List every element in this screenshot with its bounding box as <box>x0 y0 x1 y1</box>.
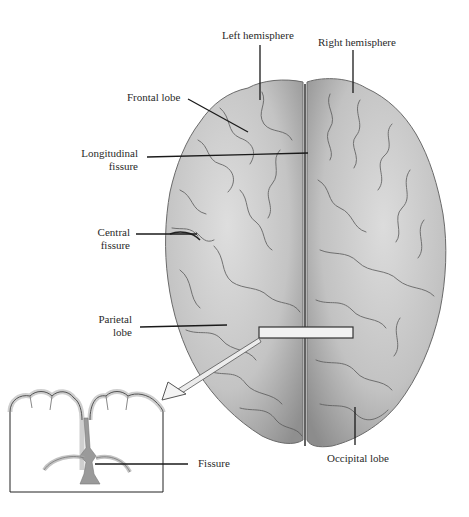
label-central-fissure-line2: fissure <box>80 239 130 252</box>
brain-diagram <box>0 0 469 517</box>
label-parietal-lobe: Parietal lobe <box>80 313 132 339</box>
label-longitudinal-fissure-line2: fissure <box>70 160 138 173</box>
label-left-hemisphere: Left hemisphere <box>222 29 294 42</box>
label-parietal-lobe-line2: lobe <box>80 326 132 339</box>
label-frontal-lobe: Frontal lobe <box>127 91 180 104</box>
label-right-hemisphere: Right hemisphere <box>318 36 396 49</box>
coronal-section-inset <box>10 392 163 493</box>
label-central-fissure: Central fissure <box>80 226 130 252</box>
label-fissure: Fissure <box>198 457 230 470</box>
label-occipital-lobe: Occipital lobe <box>327 452 389 465</box>
label-central-fissure-line1: Central <box>80 226 130 239</box>
label-longitudinal-fissure-line1: Longitudinal <box>70 147 138 160</box>
label-parietal-lobe-line1: Parietal <box>80 313 132 326</box>
section-plane-marker <box>259 327 353 338</box>
label-longitudinal-fissure: Longitudinal fissure <box>70 147 138 173</box>
